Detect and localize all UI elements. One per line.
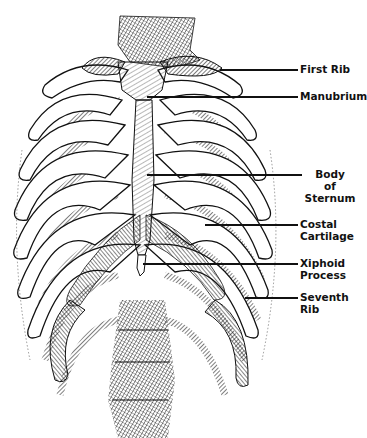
xiphoid-process — [137, 255, 146, 276]
sternum-body — [132, 100, 154, 255]
leader-line-seventh-rib — [245, 297, 298, 299]
label-seventh-rib: Seventh Rib — [300, 291, 349, 315]
label-xiphoid-process: Xiphoid Process — [300, 257, 346, 281]
first-rib-right — [160, 56, 222, 76]
label-costal-cartilage: Costal Cartilage — [300, 218, 354, 242]
label-body-of-sternum: Body of Sternum — [303, 168, 357, 204]
leader-line-xiphoid-process — [143, 263, 298, 265]
label-manubrium: Manubrium — [300, 90, 367, 102]
leader-line-costal-cartilage — [205, 224, 298, 226]
leader-line-manubrium — [147, 96, 298, 98]
leader-line-body-of-sternum — [147, 174, 302, 176]
label-first-rib: First Rib — [300, 63, 350, 75]
leader-line-first-rib — [220, 69, 298, 71]
manubrium — [118, 62, 168, 100]
